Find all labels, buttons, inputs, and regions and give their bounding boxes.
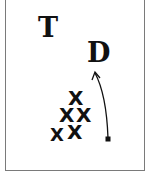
start-square-icon — [106, 137, 111, 142]
movement-arrow — [0, 0, 153, 177]
